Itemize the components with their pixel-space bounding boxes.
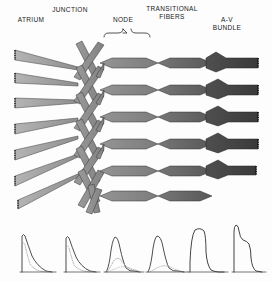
transitional-mesh-cell — [158, 85, 212, 95]
label-av-bundle: A-V BUNDLE — [204, 16, 250, 31]
transitional-mesh-cell — [158, 166, 212, 176]
node-mesh-cell — [100, 139, 158, 149]
node-mesh-cell — [100, 112, 158, 122]
label-transitional-fibers: TRANSITIONAL FIBERS — [140, 5, 204, 20]
label-node: NODE — [106, 16, 140, 24]
transitional-mesh-cell — [158, 191, 212, 201]
node-mesh-cell — [100, 58, 158, 68]
transitional-mesh-cell — [158, 58, 212, 68]
label-atrium: ATRIUM — [8, 16, 54, 24]
transitional-mesh-cell — [158, 112, 212, 122]
node-mesh-cell — [100, 166, 158, 176]
node-mesh-cell — [100, 191, 158, 201]
label-junction: JUNCTION — [42, 6, 98, 14]
transitional-mesh-cell — [158, 139, 212, 149]
av-node-conduction-figure — [0, 0, 272, 282]
node-mesh-cell — [100, 85, 158, 95]
